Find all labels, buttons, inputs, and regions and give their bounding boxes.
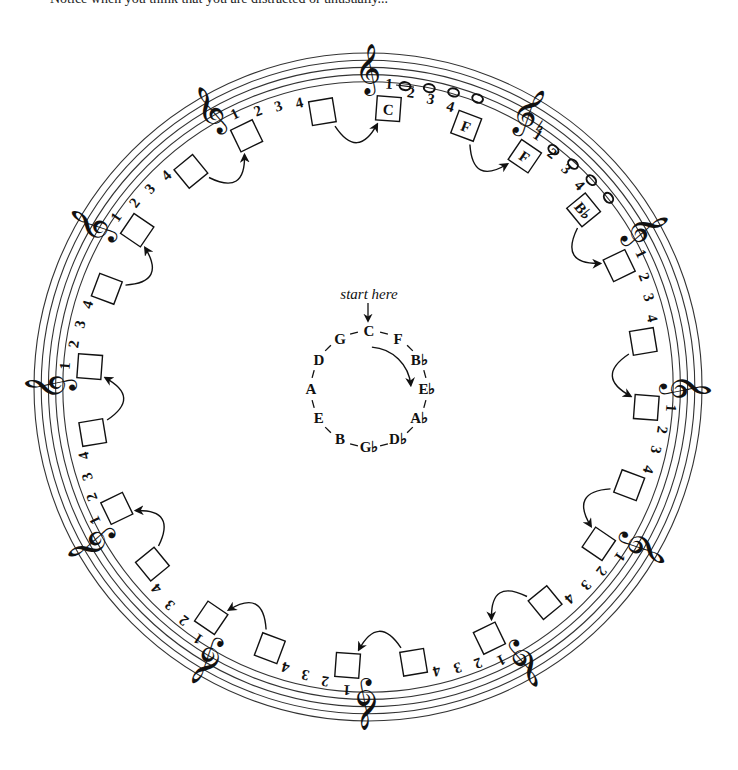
circle-connector: [407, 345, 413, 351]
circle-note-label: G♭: [360, 439, 379, 455]
circle-connector: [424, 370, 426, 378]
treble-clefs: 𝄞𝄞𝄞𝄞𝄞𝄞𝄞𝄞𝄞𝄞𝄞𝄞: [23, 42, 713, 732]
beat-number: 3: [648, 444, 665, 455]
beat-number: 3: [452, 659, 464, 677]
staff-line: [41, 60, 695, 714]
beat-number: 1: [632, 247, 650, 261]
beat-number: 3: [640, 291, 658, 303]
chord-answer-box[interactable]: [528, 586, 562, 620]
beat-number: 2: [654, 425, 671, 435]
progression-arrow: [584, 489, 611, 527]
circle-note-label: G: [334, 331, 346, 347]
circle-note-label: C: [364, 323, 375, 339]
whole-note-icon: [585, 173, 598, 187]
beat-number: 1: [228, 105, 242, 123]
beat-number: 2: [472, 655, 485, 673]
chord-answer-box[interactable]: B♭: [567, 193, 601, 227]
chord-answer-box[interactable]: [231, 120, 263, 152]
beat-number: 4: [445, 98, 457, 116]
progression-arrow: [335, 124, 377, 142]
beat-number: 2: [126, 195, 143, 211]
beat-number: 2: [320, 673, 330, 690]
circle-note-label: A♭: [410, 410, 428, 426]
chord-answer-box[interactable]: [309, 98, 337, 126]
chord-answer-box[interactable]: [254, 633, 285, 664]
beat-number: 1: [190, 630, 205, 647]
staff-line: [56, 75, 681, 700]
inner-circle-of-fourths: CFB♭E♭A♭D♭G♭BEADGstart here: [306, 286, 436, 455]
beat-number: 1: [663, 404, 679, 413]
chord-answer-box[interactable]: [614, 470, 645, 501]
chord-answer-box[interactable]: [195, 601, 228, 634]
beat-number: 2: [636, 271, 654, 284]
beat-number: 3: [300, 667, 311, 684]
progression-arrow: [470, 145, 508, 172]
beat-number: 4: [158, 166, 175, 183]
chord-answer-box[interactable]: [121, 214, 154, 247]
circle-connector: [407, 427, 413, 433]
circle-note-label: E♭: [418, 381, 435, 397]
circle-of-fourths-diagram: 𝄞𝄞𝄞𝄞𝄞𝄞𝄞𝄞𝄞𝄞𝄞𝄞 1234CF1234FB♭12341234123412…: [0, 0, 738, 770]
progression-arrow: [136, 510, 164, 546]
beat-number: 3: [272, 97, 284, 115]
staff-line: [63, 82, 673, 692]
chord-answer-box[interactable]: [582, 527, 615, 560]
chord-answer-box[interactable]: [473, 622, 505, 654]
beat-number: 3: [578, 577, 595, 593]
beat-number: 2: [176, 612, 192, 629]
chord-answer-box[interactable]: [136, 547, 170, 581]
circle-note-label: B: [335, 431, 345, 447]
beat-number: 4: [294, 94, 306, 111]
chord-answer-box[interactable]: [603, 250, 635, 282]
staff-line: [48, 67, 687, 706]
beat-number: 4: [431, 663, 443, 680]
beat-number: 2: [593, 563, 610, 579]
circle-note-label: B♭: [411, 352, 428, 368]
beat-number: 1: [86, 513, 104, 527]
progression-arrow: [491, 591, 527, 619]
chord-answer-box[interactable]: [335, 652, 361, 678]
beat-number: 1: [494, 651, 508, 669]
beat-number: 3: [78, 471, 96, 483]
beat-number: 2: [65, 339, 82, 349]
chord-answer-box[interactable]: [400, 649, 428, 677]
progression-arrow: [209, 155, 245, 183]
chord-answer-box[interactable]: [91, 273, 122, 304]
circle-note-label: D♭: [389, 431, 407, 447]
chord-answer-box[interactable]: F: [508, 140, 541, 173]
circle-note-label: D: [313, 352, 324, 368]
treble-clef-icon: 𝄞: [23, 374, 77, 400]
circle-connector: [312, 370, 314, 378]
box-note-label: C: [382, 101, 394, 118]
progression-arrow: [572, 228, 600, 264]
beat-number: 4: [640, 464, 658, 476]
treble-clef-icon: 𝄞: [355, 678, 381, 732]
chord-answer-box[interactable]: [633, 395, 659, 421]
beat-number: 4: [644, 313, 661, 325]
circular-staff: [34, 53, 702, 721]
circle-connector: [325, 427, 331, 433]
circle-connector: [350, 444, 358, 446]
beat-number: 1: [385, 75, 394, 91]
chord-answer-box[interactable]: [174, 155, 208, 189]
chord-answer-box[interactable]: [77, 354, 103, 380]
circle-connector: [380, 444, 388, 446]
chord-answer-box[interactable]: [79, 419, 107, 447]
beat-number: 3: [71, 319, 88, 330]
circle-note-label: F: [393, 331, 402, 347]
beat-number: 2: [83, 491, 101, 504]
staff-line: [34, 53, 702, 721]
beat-number: 3: [161, 597, 177, 614]
chord-answer-box[interactable]: [101, 492, 133, 524]
whole-note-icon: [471, 93, 484, 104]
chord-answer-box[interactable]: F: [451, 110, 482, 141]
progression-arrow: [126, 248, 153, 286]
treble-clef-icon: 𝄞: [659, 374, 713, 400]
beat-number: 4: [279, 659, 291, 677]
progression-arrow: [359, 631, 401, 649]
circle-connector: [424, 400, 426, 408]
practice-segments: 1234CF1234FB♭123412341234123412341234123…: [56, 75, 679, 698]
circle-connector: [325, 345, 331, 351]
chord-answer-box[interactable]: C: [376, 96, 402, 122]
chord-answer-box[interactable]: [630, 328, 658, 356]
